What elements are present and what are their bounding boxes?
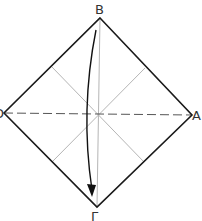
arrowhead-icon xyxy=(87,184,96,197)
fold-arrow xyxy=(87,30,96,190)
crease-vertical-diagonal xyxy=(97,18,100,207)
label-bottom-vertex: Γ xyxy=(91,209,99,221)
origami-diagram: B A Γ D xyxy=(0,0,202,221)
label-left-vertex: D xyxy=(0,106,4,121)
label-top-vertex: B xyxy=(95,2,104,17)
label-right-vertex: A xyxy=(192,108,201,123)
